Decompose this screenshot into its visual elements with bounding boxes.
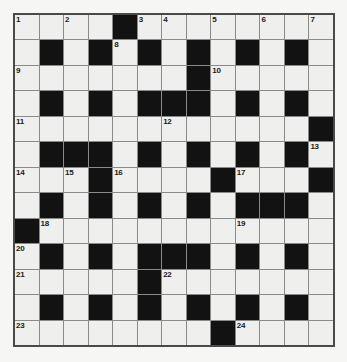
crossword-letter-cell[interactable] (285, 66, 309, 90)
crossword-letter-cell[interactable] (236, 270, 260, 294)
crossword-letter-cell[interactable] (211, 219, 235, 243)
crossword-letter-cell[interactable]: 17 (236, 168, 260, 192)
crossword-letter-cell[interactable] (211, 142, 235, 166)
crossword-letter-cell[interactable] (64, 244, 88, 268)
crossword-letter-cell[interactable] (64, 270, 88, 294)
crossword-letter-cell[interactable] (285, 15, 309, 39)
crossword-letter-cell[interactable] (138, 168, 162, 192)
crossword-letter-cell[interactable] (15, 40, 39, 64)
crossword-letter-cell[interactable] (113, 193, 137, 217)
crossword-letter-cell[interactable] (309, 270, 333, 294)
crossword-letter-cell[interactable]: 3 (138, 15, 162, 39)
crossword-letter-cell[interactable] (187, 270, 211, 294)
crossword-letter-cell[interactable] (260, 168, 284, 192)
crossword-letter-cell[interactable] (187, 168, 211, 192)
crossword-letter-cell[interactable] (211, 270, 235, 294)
crossword-letter-cell[interactable] (113, 321, 137, 345)
crossword-letter-cell[interactable]: 7 (309, 15, 333, 39)
crossword-letter-cell[interactable] (113, 295, 137, 319)
crossword-grid[interactable]: 123456789101112131415161718192021222324 (13, 13, 335, 347)
crossword-letter-cell[interactable] (138, 66, 162, 90)
crossword-letter-cell[interactable] (211, 295, 235, 319)
crossword-letter-cell[interactable] (236, 117, 260, 141)
crossword-letter-cell[interactable] (260, 321, 284, 345)
crossword-letter-cell[interactable] (211, 244, 235, 268)
crossword-letter-cell[interactable] (138, 219, 162, 243)
crossword-letter-cell[interactable] (113, 66, 137, 90)
crossword-letter-cell[interactable]: 6 (260, 15, 284, 39)
crossword-letter-cell[interactable]: 9 (15, 66, 39, 90)
crossword-letter-cell[interactable] (260, 219, 284, 243)
crossword-letter-cell[interactable] (40, 15, 64, 39)
crossword-letter-cell[interactable] (211, 117, 235, 141)
crossword-letter-cell[interactable]: 1 (15, 15, 39, 39)
crossword-letter-cell[interactable] (113, 91, 137, 115)
crossword-letter-cell[interactable] (64, 66, 88, 90)
crossword-letter-cell[interactable]: 18 (40, 219, 64, 243)
crossword-letter-cell[interactable]: 15 (64, 168, 88, 192)
crossword-letter-cell[interactable] (89, 270, 113, 294)
crossword-letter-cell[interactable] (187, 15, 211, 39)
crossword-letter-cell[interactable]: 8 (113, 40, 137, 64)
crossword-letter-cell[interactable] (64, 295, 88, 319)
crossword-letter-cell[interactable] (187, 219, 211, 243)
crossword-letter-cell[interactable]: 23 (15, 321, 39, 345)
crossword-letter-cell[interactable]: 2 (64, 15, 88, 39)
crossword-letter-cell[interactable] (260, 117, 284, 141)
crossword-letter-cell[interactable] (162, 219, 186, 243)
crossword-letter-cell[interactable] (162, 295, 186, 319)
crossword-letter-cell[interactable] (162, 168, 186, 192)
crossword-letter-cell[interactable] (40, 321, 64, 345)
crossword-letter-cell[interactable]: 22 (162, 270, 186, 294)
crossword-letter-cell[interactable] (113, 244, 137, 268)
crossword-letter-cell[interactable] (89, 66, 113, 90)
crossword-letter-cell[interactable]: 12 (162, 117, 186, 141)
crossword-letter-cell[interactable]: 4 (162, 15, 186, 39)
crossword-letter-cell[interactable]: 20 (15, 244, 39, 268)
crossword-letter-cell[interactable] (285, 117, 309, 141)
crossword-letter-cell[interactable]: 5 (211, 15, 235, 39)
crossword-letter-cell[interactable] (309, 40, 333, 64)
crossword-letter-cell[interactable] (309, 193, 333, 217)
crossword-letter-cell[interactable] (64, 193, 88, 217)
crossword-letter-cell[interactable] (260, 244, 284, 268)
crossword-letter-cell[interactable] (309, 295, 333, 319)
crossword-letter-cell[interactable] (187, 117, 211, 141)
crossword-letter-cell[interactable] (309, 66, 333, 90)
crossword-letter-cell[interactable] (211, 193, 235, 217)
crossword-letter-cell[interactable] (15, 91, 39, 115)
crossword-letter-cell[interactable] (138, 117, 162, 141)
crossword-letter-cell[interactable] (309, 91, 333, 115)
crossword-letter-cell[interactable] (309, 321, 333, 345)
crossword-letter-cell[interactable]: 19 (236, 219, 260, 243)
crossword-letter-cell[interactable]: 13 (309, 142, 333, 166)
crossword-letter-cell[interactable]: 11 (15, 117, 39, 141)
crossword-letter-cell[interactable] (15, 142, 39, 166)
crossword-letter-cell[interactable] (162, 40, 186, 64)
crossword-letter-cell[interactable] (285, 270, 309, 294)
crossword-letter-cell[interactable] (162, 142, 186, 166)
crossword-letter-cell[interactable] (15, 193, 39, 217)
crossword-letter-cell[interactable] (40, 270, 64, 294)
crossword-letter-cell[interactable] (113, 270, 137, 294)
crossword-letter-cell[interactable] (89, 321, 113, 345)
crossword-letter-cell[interactable] (162, 321, 186, 345)
crossword-letter-cell[interactable] (113, 142, 137, 166)
crossword-letter-cell[interactable] (64, 219, 88, 243)
crossword-letter-cell[interactable] (211, 40, 235, 64)
crossword-letter-cell[interactable]: 16 (113, 168, 137, 192)
crossword-letter-cell[interactable] (260, 66, 284, 90)
crossword-letter-cell[interactable] (260, 40, 284, 64)
crossword-letter-cell[interactable] (40, 117, 64, 141)
crossword-letter-cell[interactable]: 21 (15, 270, 39, 294)
crossword-letter-cell[interactable]: 14 (15, 168, 39, 192)
crossword-letter-cell[interactable] (113, 219, 137, 243)
crossword-letter-cell[interactable] (64, 321, 88, 345)
crossword-letter-cell[interactable] (64, 91, 88, 115)
crossword-letter-cell[interactable] (236, 66, 260, 90)
crossword-letter-cell[interactable] (40, 66, 64, 90)
crossword-letter-cell[interactable] (211, 91, 235, 115)
crossword-letter-cell[interactable] (40, 168, 64, 192)
crossword-letter-cell[interactable] (260, 142, 284, 166)
crossword-letter-cell[interactable] (89, 117, 113, 141)
